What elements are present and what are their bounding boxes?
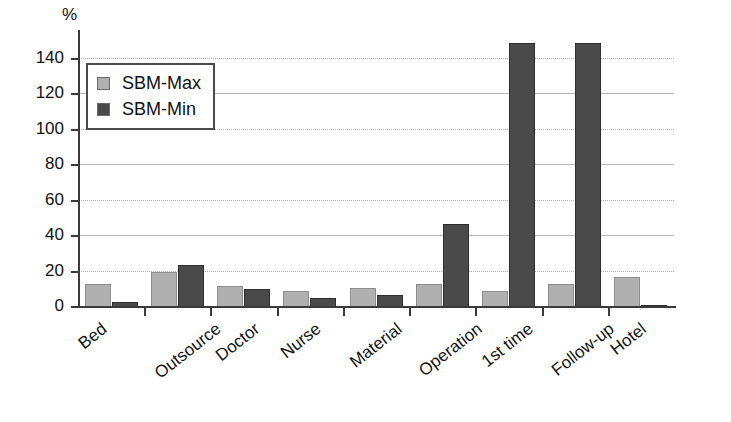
bar: [443, 224, 469, 307]
bar: [509, 43, 535, 307]
x-axis-tick: [475, 307, 477, 316]
bar: [178, 265, 204, 308]
x-axis-label: Doctor: [212, 320, 263, 365]
x-axis-tick: [343, 307, 345, 316]
y-axis-tick-label: 140: [0, 49, 64, 66]
x-axis-tick: [277, 307, 279, 316]
legend-label: SBM-Max: [122, 73, 201, 93]
y-axis-tick: [71, 58, 79, 60]
bar: [217, 286, 243, 307]
x-axis-label: Outsource: [152, 320, 225, 382]
bar: [575, 43, 601, 307]
x-axis-label: Material: [347, 320, 406, 371]
x-axis-tick: [210, 307, 212, 316]
y-axis-tick-label: 20: [0, 262, 64, 279]
legend-item: SBM-Max: [97, 70, 201, 96]
y-axis-tick: [71, 200, 79, 202]
bar: [416, 284, 442, 307]
bar: [548, 284, 574, 307]
bar-chart: % 020406080100120140 SBM-Max SBM-Min Bed…: [0, 0, 731, 422]
x-axis-tick: [608, 307, 610, 316]
y-axis-tick: [71, 271, 79, 273]
y-axis-tick: [71, 93, 79, 95]
legend-swatch-icon: [97, 77, 110, 90]
bar: [283, 291, 309, 307]
legend: SBM-Max SBM-Min: [86, 63, 215, 130]
x-axis-line: [78, 306, 676, 308]
bar: [350, 288, 376, 307]
y-axis-tick-label: 0: [0, 297, 64, 314]
y-axis-tick: [71, 129, 79, 131]
x-axis-tick: [542, 307, 544, 316]
y-axis-tick-label: 80: [0, 155, 64, 172]
x-axis-label: Nurse: [277, 320, 324, 362]
bar: [151, 272, 177, 307]
x-axis-label: Operation: [416, 320, 486, 380]
legend-label: SBM-Min: [122, 99, 196, 119]
bar: [244, 289, 270, 307]
legend-item: SBM-Min: [97, 96, 201, 122]
y-axis-line: [78, 30, 80, 308]
legend-swatch-icon: [97, 103, 110, 116]
x-axis-label: Bed: [76, 320, 111, 353]
bar: [85, 284, 111, 307]
x-axis-label: 1st time: [479, 320, 537, 371]
y-axis-tick-label: 40: [0, 226, 64, 243]
x-axis-tick: [409, 307, 411, 316]
x-axis-label: Hotel: [607, 320, 649, 359]
y-axis-tick: [71, 235, 79, 237]
bar: [482, 291, 508, 307]
y-axis-tick-label: 120: [0, 84, 64, 101]
x-axis-tick: [144, 307, 146, 316]
y-axis-unit-label: %: [62, 6, 77, 24]
y-axis-tick-label: 60: [0, 191, 64, 208]
y-axis-tick-label: 100: [0, 120, 64, 137]
y-axis-tick: [71, 164, 79, 166]
bar: [614, 277, 640, 307]
y-axis-tick: [71, 306, 79, 308]
x-axis-label: Follow-up: [548, 320, 617, 380]
